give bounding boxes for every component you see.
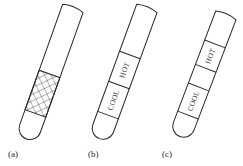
tube-a-crosshatch <box>25 70 60 117</box>
panel-label-b: (b) <box>88 149 99 159</box>
tube-c-outline <box>170 10 237 141</box>
tube-a <box>16 3 84 143</box>
tube-a-outline <box>16 3 84 143</box>
panel-label-c: (c) <box>162 149 172 159</box>
tube-b: HOT COOL <box>89 3 158 142</box>
test-tubes-diagram: HOT COOL HOT COOL <box>0 0 243 166</box>
tube-c: HOT COOL <box>170 10 237 141</box>
panel-label-a: (a) <box>8 149 18 159</box>
